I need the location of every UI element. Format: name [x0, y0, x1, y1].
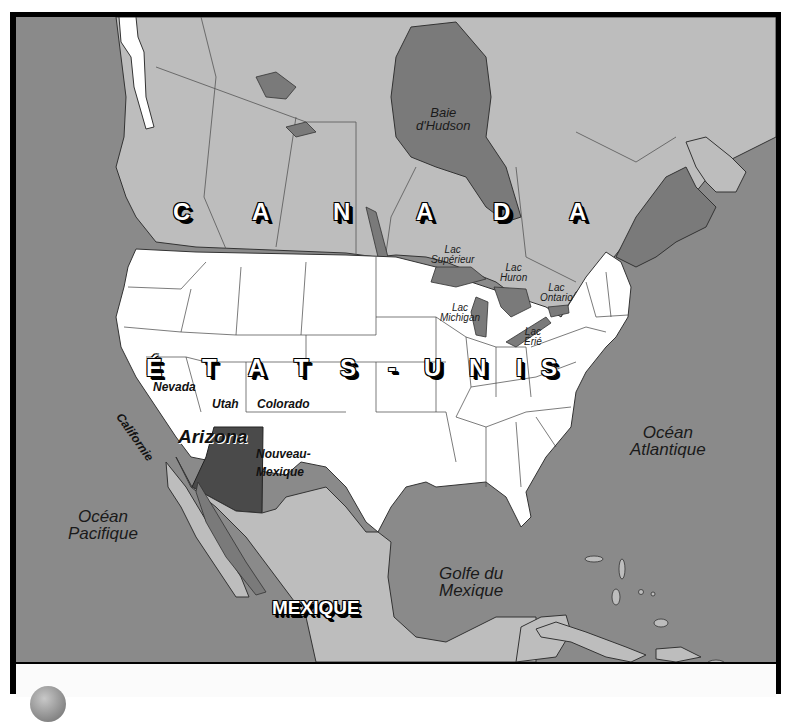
caribbean-island [654, 619, 668, 627]
usa-letter-8: N [469, 356, 486, 380]
colorado-label: Colorado [257, 398, 310, 410]
mexico-label: MEXIQUE [272, 598, 360, 617]
bahamas-island-1 [585, 556, 603, 562]
gulf-of-mexico-label: Golfe du Mexique [439, 565, 503, 599]
nevada-label: Nevada [153, 381, 196, 393]
usa-letter-2: T [202, 356, 217, 380]
usa-letter-9: I [516, 356, 523, 380]
caption-strip [16, 664, 776, 697]
usa-letter-6: - [388, 356, 396, 380]
usa-letter-3: A [248, 356, 265, 380]
lake-ontario-label: Lac Ontario [540, 283, 573, 303]
usa-letter-10: S [541, 356, 557, 380]
canada-letter-5: D [493, 200, 510, 224]
hudson-bay-label: Baie d'Hudson [416, 106, 471, 132]
map-canvas: Baie d'Hudson Océan Pacifique Océan Atla… [16, 17, 776, 662]
bahamas-island-3 [612, 589, 620, 605]
canada-letter-1: C [173, 200, 190, 224]
new-mexico-label: Nouveau- Mexique [256, 445, 311, 481]
usa-letter-7: U [424, 356, 441, 380]
bahamas-island-5 [651, 592, 655, 596]
bahamas-island-4 [639, 590, 644, 595]
lake-huron-label: Lac Huron [500, 263, 527, 283]
pacific-ocean-label: Océan Pacifique [68, 508, 138, 542]
lake-erie-label: Lac Érié [524, 327, 542, 347]
lake-michigan-label: Lac Michigan [440, 303, 480, 323]
canada-letter-6: A [569, 200, 586, 224]
canada-letter-2: A [252, 200, 269, 224]
bahamas-island-2 [619, 559, 625, 579]
canada-letter-4: A [416, 200, 433, 224]
logo-icon [30, 686, 66, 722]
lake-superior-label: Lac Supérieur [431, 245, 474, 265]
usa-letter-4: T [294, 356, 309, 380]
usa-letter-5: S [340, 356, 356, 380]
canada-letter-3: N [333, 200, 350, 224]
arizona-label: Arizona [178, 427, 248, 446]
hispaniola [656, 647, 701, 662]
utah-label: Utah [212, 398, 239, 410]
puerto-rico [706, 660, 726, 662]
map-graphic [16, 17, 776, 662]
atlantic-ocean-label: Océan Atlantique [630, 424, 706, 458]
usa-letter-1: É [146, 356, 162, 380]
